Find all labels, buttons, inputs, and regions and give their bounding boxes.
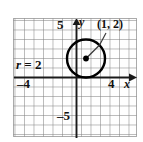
circle-graph-figure: 5 –5 –4 4 y x (1, 2) r = 2 (0, 0, 143, 142)
x-axis-name-label: x (124, 78, 130, 90)
y-axis-name-label: y (79, 16, 84, 28)
y-axis-tick-label-negative-5: –5 (57, 109, 70, 122)
x-axis-arrowhead-icon (129, 74, 137, 82)
x-axis-tick-label-4: 4 (108, 77, 115, 90)
radius-label: r = 2 (16, 58, 41, 71)
coordinate-grid (13, 18, 137, 137)
graph-drawing-layer (14, 19, 138, 138)
radius-label-value: = 2 (21, 57, 41, 72)
y-axis-tick-label-5: 5 (57, 18, 64, 31)
x-axis-tick-label-negative-4: –4 (17, 77, 30, 90)
y-axis (73, 19, 81, 138)
center-point-coordinate-label: (1, 2) (97, 18, 123, 30)
point-label-leader-line (100, 33, 106, 45)
center-point-marker (83, 56, 89, 62)
